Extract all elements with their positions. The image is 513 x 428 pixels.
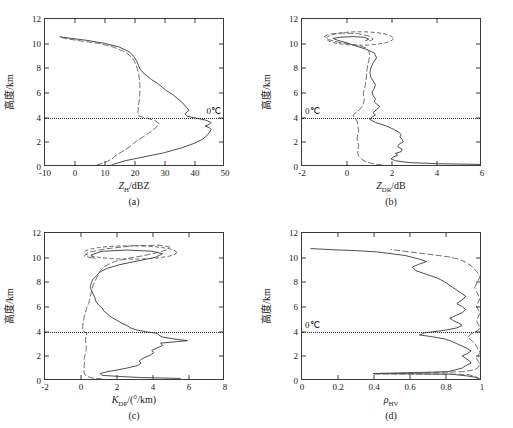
panel-a-y-tick-mark	[219, 68, 223, 69]
panel-a-y-tick-mark	[219, 93, 223, 94]
panel-d-y-axis-label: 高度/km	[258, 288, 273, 324]
panel-a-x-tick-label: -10	[39, 169, 51, 178]
panel-c-caption: (c)	[128, 410, 139, 421]
panel-d-x-tick-label: 0.4	[368, 383, 379, 392]
panel-b-plot-area: 0℃ 024681012-20246	[301, 18, 481, 166]
panel-b-y-tick-mark	[302, 142, 306, 143]
figure-vertical-profiles: 高度/km 0℃ 024681012-1001020304050 ZH/dBZ …	[0, 0, 513, 428]
panel-a-y-tick-mark	[45, 142, 49, 143]
panel-a-curves	[45, 19, 223, 165]
panel-a-y-tick-mark	[219, 142, 223, 143]
panel-b-x-tick-mark	[437, 19, 438, 23]
panel-d-y-tick-mark	[476, 257, 480, 258]
panel-d-x-tick-mark	[446, 375, 447, 379]
panel-c-y-tick-mark	[219, 331, 223, 332]
panel-b-y-tick-label: 8	[294, 64, 299, 73]
panel-b-y-tick-mark	[302, 68, 306, 69]
panel-b-x-tick-label: 4	[435, 169, 440, 178]
panel-a-x-tick-label: 30	[161, 169, 170, 178]
panel-a-x-tick-label: 0	[73, 169, 78, 178]
panel-d-y-tick-mark	[476, 307, 480, 308]
panel-c-y-tick-mark	[45, 257, 49, 258]
panel-a-y-tick-label: 12	[32, 15, 41, 24]
panel-c-x-tick-label: 8	[223, 383, 228, 392]
panel-c-x-tick-mark	[117, 233, 118, 237]
panel-d-x-tick-label: 0.8	[440, 383, 451, 392]
panel-d-freezing-label: 0℃	[305, 321, 320, 330]
panel-d-x-tick-label: 0.6	[404, 383, 415, 392]
panel-c-curve-solid	[90, 250, 187, 378]
panel-d-y-tick-label: 12	[289, 229, 298, 238]
panel-a-x-unit: /dBZ	[129, 180, 150, 191]
panel-b-x-subscript: DR	[382, 186, 391, 193]
panel-b-x-tick-mark	[392, 161, 393, 165]
panel-d-x-tick-label: 0	[300, 383, 305, 392]
panel-d-freezing-line	[302, 332, 480, 333]
panel-b-y-tick-mark	[476, 142, 480, 143]
panel-b-x-unit: /dB	[391, 180, 405, 191]
panel-b-freezing-line	[302, 118, 480, 119]
panel-b-y-tick-mark	[476, 117, 480, 118]
panel-c-x-tick-mark	[117, 375, 118, 379]
panel-b-x-tick-mark	[392, 19, 393, 23]
panel-a-plot-area: 0℃ 024681012-1001020304050	[44, 18, 224, 166]
panel-d-x-tick-mark	[374, 375, 375, 379]
panel-c-y-tick-mark	[219, 307, 223, 308]
panel-b-x-tick-mark	[347, 161, 348, 165]
panel-b-y-tick-mark	[476, 93, 480, 94]
panel-a-x-tick-mark	[105, 19, 106, 23]
panel-a-y-tick-mark	[45, 93, 49, 94]
panel-a-x-tick-label: 50	[221, 169, 230, 178]
panel-b-y-tick-label: 10	[289, 39, 298, 48]
panel-d-y-tick-mark	[476, 331, 480, 332]
panel-b-curve-solid	[333, 37, 480, 165]
panel-b-x-tick-label: -2	[298, 169, 306, 178]
panel-b-x-tick-label: 2	[390, 169, 395, 178]
panel-a-y-tick-mark	[219, 43, 223, 44]
panel-c-x-tick-mark	[189, 375, 190, 379]
panel-a-x-tick-mark	[105, 161, 106, 165]
panel-d-x-tick-mark	[374, 233, 375, 237]
panel-b-y-tick-label: 12	[289, 15, 298, 24]
panel-c-x-axis-label: KDP/(°/km)	[112, 394, 156, 407]
panel-a-x-tick-mark	[135, 19, 136, 23]
panel-a-y-tick-mark	[219, 117, 223, 118]
panel-a-x-tick-label: 10	[101, 169, 110, 178]
panel-b-x-axis-label: ZDR/dB	[376, 180, 405, 193]
panel-c-x-tick-mark	[81, 375, 82, 379]
panel-c-curve-dashed	[82, 245, 169, 379]
panel-c-x-tick-mark	[189, 233, 190, 237]
panel-c-x-unit: /(°/km)	[127, 394, 156, 405]
panel-a-y-tick-mark	[45, 68, 49, 69]
panel-a-x-tick-mark	[165, 19, 166, 23]
panel-b: 高度/km 0℃ 024681012-20246 ZDR/dB (b)	[257, 0, 513, 214]
panel-b-y-tick-mark	[476, 43, 480, 44]
panel-d: 高度/km 0℃ 02468101200.20.40.60.81 ρHV (d)	[257, 214, 513, 428]
panel-d-y-tick-label: 0	[294, 377, 299, 386]
panel-c-y-tick-label: 6	[37, 303, 42, 312]
panel-d-y-tick-mark	[302, 331, 306, 332]
panel-c-x-tick-label: 6	[187, 383, 192, 392]
panel-d-y-tick-label: 6	[294, 303, 299, 312]
panel-a-x-tick-mark	[75, 161, 76, 165]
panel-d-x-tick-mark	[338, 233, 339, 237]
panel-c-x-tick-mark	[153, 375, 154, 379]
panel-c-y-tick-mark	[45, 356, 49, 357]
panel-c-x-tick-label: 0	[79, 383, 84, 392]
panel-c-y-axis-label: 高度/km	[1, 288, 16, 324]
panel-d-x-tick-label: 0.2	[332, 383, 343, 392]
panel-c-y-tick-mark	[45, 331, 49, 332]
panel-b-curves	[302, 19, 480, 165]
panel-a-y-axis-label: 高度/km	[1, 74, 16, 110]
panel-c-x-tick-label: -2	[41, 383, 49, 392]
panel-c-y-tick-mark	[45, 282, 49, 283]
panel-d-y-tick-label: 8	[294, 278, 299, 287]
panel-b-freezing-label: 0℃	[305, 107, 320, 116]
panel-a-x-tick-label: 40	[191, 169, 200, 178]
panel-c-freezing-line	[45, 332, 223, 333]
panel-a-y-tick-mark	[45, 43, 49, 44]
panel-b-y-axis-label: 高度/km	[258, 74, 273, 110]
panel-d-x-subscript: HV	[388, 400, 398, 407]
panel-c-y-tick-label: 10	[32, 253, 41, 262]
panel-d-x-tick-mark	[410, 375, 411, 379]
